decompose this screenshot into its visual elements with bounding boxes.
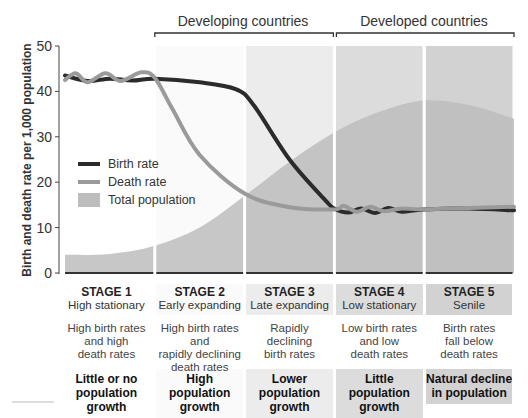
- y-tick-label-20: 20: [36, 174, 52, 190]
- region-label-developed: Developed countries: [334, 13, 514, 29]
- legend-label: Death rate: [108, 175, 166, 189]
- stage-subtitle: Late expanding: [246, 299, 333, 312]
- stage-title: STAGE 1: [61, 286, 152, 299]
- stage-divider-4: [423, 46, 426, 274]
- legend-item-death-rate: Death rate: [78, 173, 196, 191]
- stage-description-line: and high: [61, 335, 152, 348]
- stage-description: Birth ratesfall belowdeath rates: [426, 322, 513, 364]
- stage-growth: Natural declinein population: [426, 369, 513, 404]
- y-tick-label-30: 30: [36, 129, 52, 145]
- stage-column-4: STAGE 4 Low stationary Low birth ratesan…: [336, 284, 423, 418]
- stage-title: STAGE 5: [426, 286, 513, 299]
- stage-subtitle: Early expanding: [156, 299, 243, 312]
- stage-growth-line: Lower: [246, 372, 333, 386]
- stage-description-line: death rates: [426, 348, 513, 361]
- stage-description-line: rapidly declining: [156, 348, 243, 361]
- stage-subtitle: Senile: [426, 299, 513, 312]
- legend-swatch-total-population: [78, 193, 100, 207]
- stage-description-line: birth rates: [246, 348, 333, 361]
- stage-description-line: death rates: [336, 348, 423, 361]
- stage-description-line: and low: [336, 335, 423, 348]
- y-axis-label: Birth and death rate per 1,000 populatio…: [20, 43, 34, 276]
- stage-growth-line: in population: [426, 386, 513, 400]
- stage-growth-line: Little: [336, 372, 423, 386]
- stage-column-2: STAGE 2 Early expanding High birth rates…: [156, 284, 243, 418]
- stage-description: High birth rates andrapidly decliningdea…: [156, 322, 243, 364]
- stage-description-line: Rapidly: [246, 322, 333, 335]
- stage-growth-line: Little or no: [61, 372, 152, 386]
- stage-description-line: Low birth rates: [336, 322, 423, 335]
- stage-header: STAGE 1 High stationary: [61, 284, 152, 315]
- stage-description-line: High birth rates and: [156, 322, 243, 348]
- stage-growth-line: population growth: [246, 386, 333, 414]
- legend-label: Birth rate: [108, 157, 159, 171]
- stage-description-line: fall below: [426, 335, 513, 348]
- region-label-developing: Developing countries: [153, 13, 333, 29]
- region-bracket-developed: [336, 33, 514, 37]
- stage-description: High birth ratesand highdeath rates: [61, 322, 152, 364]
- stage-growth-line: population growth: [61, 386, 152, 414]
- stage-header: STAGE 5 Senile: [426, 284, 513, 315]
- stage-description-line: death rates: [61, 348, 152, 361]
- stage-description-line: Birth rates: [426, 322, 513, 335]
- stage-description: Rapidlydecliningbirth rates: [246, 322, 333, 364]
- stage-description-line: declining: [246, 335, 333, 348]
- stage-description: Low birth ratesand lowdeath rates: [336, 322, 423, 364]
- decorative-mark: [12, 401, 54, 403]
- stage-column-5: STAGE 5 Senile Birth ratesfall belowdeat…: [426, 284, 513, 404]
- y-tick-label-10: 10: [36, 220, 52, 236]
- stage-divider-3: [333, 46, 336, 274]
- stage-header: STAGE 3 Late expanding: [246, 284, 333, 315]
- legend-swatch-death-rate: [78, 180, 100, 184]
- stage-title: STAGE 3: [246, 286, 333, 299]
- stage-subtitle: Low stationary: [336, 299, 423, 312]
- region-bracket-developing: [155, 33, 334, 37]
- y-tick-label-0: 0: [44, 265, 52, 281]
- stage-header: STAGE 2 Early expanding: [156, 284, 243, 315]
- stage-growth: Highpopulation growth: [156, 369, 243, 418]
- stage-header: STAGE 4 Low stationary: [336, 284, 423, 315]
- stage-growth: Lowerpopulation growth: [246, 369, 333, 418]
- legend-swatch-birth-rate: [78, 162, 100, 166]
- legend-label: Total population: [108, 193, 196, 207]
- stage-growth: Little or nopopulation growth: [61, 369, 152, 418]
- chart-canvas: 01020304050: [0, 0, 528, 290]
- stage-subtitle: High stationary: [61, 299, 152, 312]
- legend-item-birth-rate: Birth rate: [78, 155, 196, 173]
- legend: Birth rate Death rate Total population: [78, 155, 196, 209]
- stage-growth-line: population growth: [156, 386, 243, 414]
- stage-growth-line: population growth: [336, 386, 423, 414]
- stage-description-line: High birth rates: [61, 322, 152, 335]
- stage-growth-line: Natural decline: [426, 372, 513, 386]
- legend-item-total-population: Total population: [78, 191, 196, 209]
- stage-growth: Littlepopulation growth: [336, 369, 423, 418]
- stage-growth-line: High: [156, 372, 243, 386]
- stage-title: STAGE 2: [156, 286, 243, 299]
- stage-divider-2: [243, 46, 246, 274]
- y-tick-label-50: 50: [36, 38, 52, 54]
- stage-column-3: STAGE 3 Late expanding Rapidlydecliningb…: [246, 284, 333, 418]
- y-tick-label-40: 40: [36, 83, 52, 99]
- stage-column-1: STAGE 1 High stationary High birth rates…: [61, 284, 152, 418]
- stage-title: STAGE 4: [336, 286, 423, 299]
